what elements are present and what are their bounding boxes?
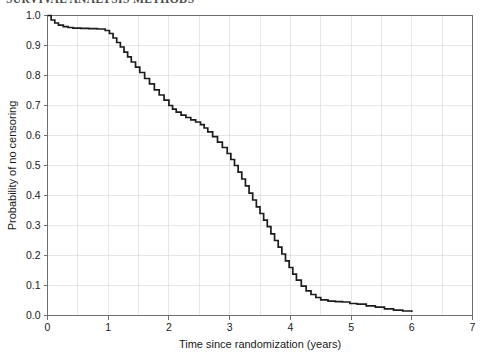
x-tick-label: 2 xyxy=(166,321,172,333)
x-tick-label: 0 xyxy=(45,321,51,333)
chart-figure: 01234567 0.00.10.20.30.40.50.60.70.80.91… xyxy=(0,0,484,354)
y-tick-label: 0.9 xyxy=(26,39,41,51)
y-tick-label: 0.4 xyxy=(26,189,41,201)
y-tick-label: 0.8 xyxy=(26,69,41,81)
kaplan-meier-chart: 01234567 0.00.10.20.30.40.50.60.70.80.91… xyxy=(0,0,484,354)
tick-marks-group xyxy=(44,16,473,320)
y-tick-label: 0.0 xyxy=(26,309,41,321)
x-tick-label: 3 xyxy=(227,321,233,333)
x-tick-label: 5 xyxy=(348,321,354,333)
y-tick-label: 0.7 xyxy=(26,99,41,111)
y-axis-title: Probability of no censoring xyxy=(6,101,18,231)
y-tick-label: 1.0 xyxy=(26,9,41,21)
x-tick-label: 4 xyxy=(287,321,293,333)
y-tick-label: 0.6 xyxy=(26,129,41,141)
y-tick-label: 0.3 xyxy=(26,219,41,231)
y-tick-label: 0.1 xyxy=(26,279,41,291)
x-tick-label: 1 xyxy=(105,321,111,333)
y-tick-label: 0.2 xyxy=(26,249,41,261)
x-tick-labels-group: 01234567 xyxy=(45,321,476,333)
y-tick-label: 0.5 xyxy=(26,159,41,171)
x-axis-title: Time since randomization (years) xyxy=(179,338,341,350)
gridlines-group xyxy=(48,16,473,316)
y-tick-labels-group: 0.00.10.20.30.40.50.60.70.80.91.0 xyxy=(26,9,41,321)
x-tick-label: 7 xyxy=(470,321,476,333)
x-tick-label: 6 xyxy=(409,321,415,333)
